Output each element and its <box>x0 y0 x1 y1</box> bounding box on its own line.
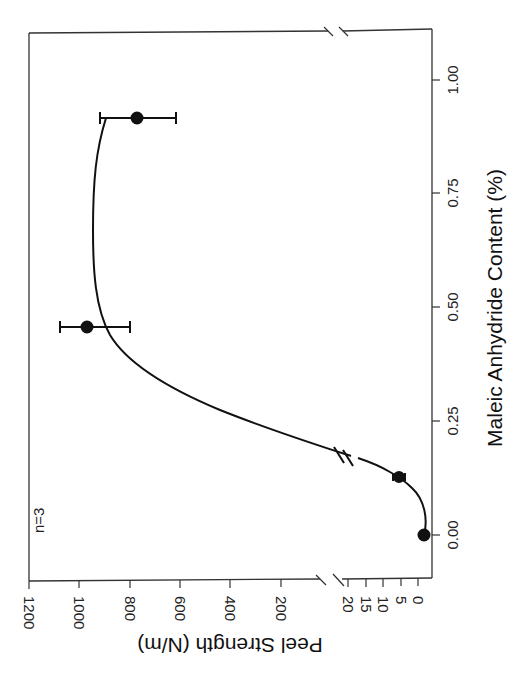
y-tick-label: 0 <box>410 596 427 604</box>
data-point <box>419 530 430 541</box>
y-tick-label: 400 <box>222 596 239 621</box>
x-tick-label: 0.75 <box>444 178 461 207</box>
x-tick-label: 1.00 <box>444 65 461 94</box>
data-point <box>394 472 404 482</box>
y-tick-labels: 1200 1000 800 600 400 200 20 15 10 5 0 <box>21 596 427 629</box>
y-tick-label: 10 <box>375 596 392 613</box>
x-tick-label: 0.00 <box>444 520 461 549</box>
data-point <box>132 113 143 124</box>
plot-frame <box>29 27 432 586</box>
x-axis-title: Maleic Anhydride Content (%) <box>483 169 506 447</box>
x-axis <box>432 80 440 535</box>
y-tick-label: 1000 <box>71 596 88 629</box>
y-tick-label: 15 <box>358 596 375 613</box>
data-points <box>60 112 430 541</box>
y-tick-label: 600 <box>172 596 189 621</box>
x-tick-label: 0.50 <box>444 292 461 321</box>
fitted-curve <box>93 118 426 535</box>
x-tick-labels: 0.00 0.25 0.50 0.75 1.00 <box>444 65 461 549</box>
y-tick-label: 1200 <box>21 596 38 629</box>
data-point <box>82 322 93 333</box>
y-tick-label: 800 <box>122 596 139 621</box>
sample-size-annotation: n=3 <box>30 508 47 533</box>
y-tick-label: 200 <box>273 596 290 621</box>
y-axis-title: Peel Strength (N/m) <box>137 634 323 657</box>
y-tick-label: 5 <box>393 596 410 604</box>
peel-strength-chart: 0.00 0.25 0.50 0.75 1.00 Maleic Anhydrid… <box>0 0 531 679</box>
y-tick-label: 20 <box>340 596 357 613</box>
x-tick-label: 0.25 <box>444 406 461 435</box>
